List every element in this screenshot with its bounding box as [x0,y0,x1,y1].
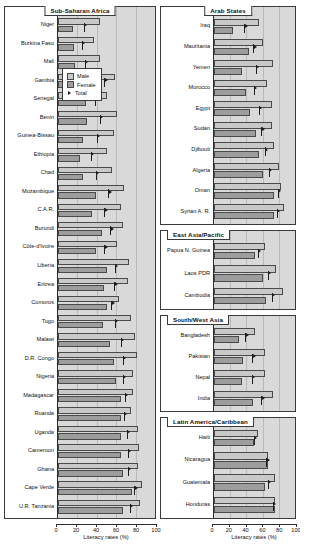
gridline [279,316,280,411]
total-marker-stem [128,467,129,476]
total-marker [115,282,118,286]
total-marker-stem [128,449,129,458]
total-marker-stem [123,375,124,384]
total-marker-stem [127,430,128,439]
total-marker-stem [104,245,105,254]
category-label: Malawi [37,337,54,343]
total-marker-stem [254,436,255,445]
category-label: Liberia [37,263,54,269]
category-labels-arab-states: IraqMauritaniaYemenMoroccoEgyptSudanDjib… [161,7,213,224]
category-label: Syrian A. R. [180,209,210,215]
total-marker-stem [130,504,131,513]
bar-female [214,357,243,364]
plot-area-latin-america-caribbean: HaitiNicaraguaGuatemalaHonduras [161,418,295,518]
bar-female [214,378,242,385]
category-label: Cameroon [28,448,54,454]
total-marker-stem [256,65,257,74]
total-marker [121,338,124,342]
category-label: Mali [44,59,54,65]
bar-female [58,26,73,32]
total-marker-stem [252,354,253,363]
category-label: Chad [41,171,54,177]
bar-male [58,500,140,506]
panel-title-east-asia-pacific: East Asia/Pacific [167,230,230,240]
total-marker [124,412,127,416]
category-label: Pakistan [189,354,210,360]
category-label: Algeria [193,168,210,174]
category-label: Guatemala [183,480,210,486]
x-axis-title-left: Literacy rates (%) [83,534,128,540]
total-marker-stem [104,78,105,87]
female-swatch-icon [67,81,74,88]
bar-male [214,19,259,26]
panel-title-sub-saharan-africa: Sub-Saharan Africa [45,6,116,16]
bar-female [214,212,274,219]
total-marker-stem [268,271,269,280]
bar-female [58,192,96,198]
x-axis-title-right: Literacy rates (%) [231,534,276,540]
x-axis-track-right: Literacy rates (%) 020406080100 [212,524,296,542]
total-marker [245,24,248,28]
total-marker [253,354,256,358]
bar-female [58,415,121,421]
bar-female [58,137,83,143]
total-marker [115,264,118,268]
category-label: Papua N. Guinea [167,248,210,254]
category-label: Nigeria [36,374,54,380]
total-marker [268,480,271,484]
bar-female [58,433,121,439]
total-marker [246,333,249,337]
legend-label-male: Male [77,72,89,80]
bar-male [58,111,117,117]
total-marker [254,86,257,90]
axis-tick-label: 40 [242,527,248,533]
total-marker-stem [261,127,262,136]
total-marker-stem [278,189,279,198]
axis-tick-label: 0 [210,527,213,533]
total-marker-stem [252,375,253,384]
category-labels-latin-america-caribbean: HaitiNicaraguaGuatemalaHonduras [161,418,213,518]
total-marker [96,171,99,175]
bar-female [58,378,116,384]
total-marker [85,60,88,64]
total-marker [123,375,126,379]
total-marker-stem [114,282,115,291]
bar-female [214,336,239,343]
total-marker-stem [104,208,105,217]
total-marker-stem [269,168,270,177]
total-marker [272,293,275,297]
total-marker-stem [245,333,246,342]
bar-male [214,60,273,67]
category-labels-south-west-asia: BangladeshPakistanNepalIndia [161,316,213,411]
bar-male [58,55,100,61]
category-labels-east-asia-pacific: Papua N. GuineaLaos PDRCambodia [161,231,213,309]
bar-female [214,48,249,55]
male-swatch-icon [67,73,74,80]
x-axis-right: Literacy rates (%) 020406080100 [160,524,296,542]
bar-female [214,399,253,406]
category-label: Ethiopia [34,152,54,158]
bar-male [214,349,265,356]
category-label: Morocco [189,85,210,91]
bar-male [214,430,258,438]
bar-female [214,439,254,447]
total-marker-stem [97,134,98,143]
bar-male [58,204,121,210]
bar-female [58,230,102,236]
bar-male [58,426,138,432]
total-marker-stem [268,480,269,489]
total-marker [262,127,265,131]
axis-tick-label: 60 [259,527,265,533]
total-marker-stem [91,152,92,161]
legend-row-female: Female [67,81,96,89]
bar-female [58,341,110,347]
total-marker [112,301,115,305]
category-label: Madagascar [23,393,54,399]
total-marker-stem [123,356,124,365]
total-marker-stem [108,189,109,198]
total-marker-stem [277,209,278,218]
category-label: Bangladesh [180,333,210,339]
category-label: Cambodia [185,293,211,299]
bar-female [214,506,275,514]
category-label: Laos PDR [185,271,211,277]
